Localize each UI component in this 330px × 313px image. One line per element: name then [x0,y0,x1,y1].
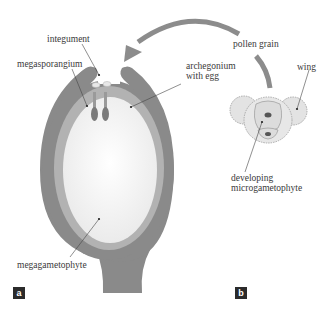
arrowhead-icon [124,45,142,62]
panel-tag-a: a [13,287,25,299]
pollen-grain [230,96,307,143]
label-developing-2: microgametophyte [231,183,302,193]
label-pollen-grain: pollen grain [233,39,279,49]
label-wing: wing [297,62,316,72]
panel-tag-b: b [235,287,247,299]
egg [102,107,109,121]
label-megagametophyte: megagametophyte [17,260,87,270]
label-developing-1: developing [231,173,273,183]
label-integument: integument [47,34,90,44]
megagametophyte [63,97,157,243]
label-archegonium-1: archegonium [186,61,236,71]
ovule [40,66,174,293]
egg [91,107,98,121]
label-archegonium-2: with egg [186,71,219,81]
label-megasporangium: megasporangium [17,59,82,69]
